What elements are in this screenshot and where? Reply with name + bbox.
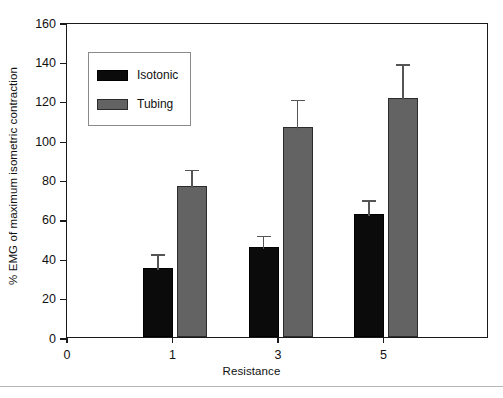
y-tick-label: 40 <box>42 252 56 268</box>
y-tick-label: 60 <box>42 212 56 228</box>
y-tick-label: 100 <box>35 134 56 150</box>
y-tick-mark <box>60 220 67 221</box>
x-tick-mark <box>172 337 173 343</box>
errorbar-cap <box>291 100 305 102</box>
y-tick-mark <box>60 299 67 300</box>
y-tick-mark <box>60 181 67 182</box>
legend-item-tubing: Tubing <box>97 96 173 112</box>
y-tick-label: 0 <box>49 331 56 347</box>
gray-swatch-icon <box>97 99 128 110</box>
y-tick-label: 20 <box>42 291 56 307</box>
y-tick-label: 140 <box>35 55 56 71</box>
bar-tubing-1 <box>177 186 207 337</box>
y-tick-mark <box>60 260 67 261</box>
errorbar-cap <box>257 236 271 238</box>
errorbar-stem <box>191 170 193 189</box>
y-tick-mark <box>60 142 67 143</box>
bar-tubing-3 <box>283 127 313 337</box>
errorbar-stem <box>368 200 370 216</box>
x-tick-mark <box>277 337 278 343</box>
legend-label: Isotonic <box>137 68 178 82</box>
legend-label: Tubing <box>137 97 173 111</box>
errorbar-stem <box>402 64 404 99</box>
y-axis-title: % EMG of maximum isometric contraction <box>7 11 19 341</box>
errorbar-cap <box>362 200 376 202</box>
x-tick-label: 1 <box>149 348 197 362</box>
chart-legend: Isotonic Tubing <box>88 52 191 126</box>
black-swatch-icon <box>97 70 128 81</box>
errorbar-stem <box>157 254 159 270</box>
legend-item-isotonic: Isotonic <box>97 67 178 83</box>
x-tick-label: 5 <box>360 348 408 362</box>
bar-tubing-5 <box>388 98 418 337</box>
x-tick-label: 0 <box>43 348 91 362</box>
y-tick-mark <box>60 63 67 64</box>
y-tick-mark <box>60 23 67 24</box>
errorbar-stem <box>297 100 299 130</box>
x-tick-label: 3 <box>254 348 302 362</box>
y-tick-mark <box>60 102 67 103</box>
errorbar-cap <box>185 170 199 172</box>
y-tick-label: 160 <box>35 16 56 32</box>
bar-isotonic-5 <box>354 214 384 337</box>
bar-isotonic-3 <box>249 247 279 337</box>
errorbar-stem <box>263 236 265 250</box>
y-tick-label: 120 <box>35 94 56 110</box>
bar-isotonic-1 <box>143 268 173 337</box>
y-tick-label: 80 <box>42 173 56 189</box>
errorbar-cap <box>396 64 410 66</box>
x-axis-title: Resistance <box>0 365 503 377</box>
x-tick-mark <box>383 337 384 343</box>
errorbar-cap <box>151 254 165 256</box>
x-tick-mark <box>66 337 67 343</box>
page-divider <box>0 386 503 387</box>
bar-chart-figure: 0 20 40 60 80 100 120 140 <box>0 0 503 398</box>
